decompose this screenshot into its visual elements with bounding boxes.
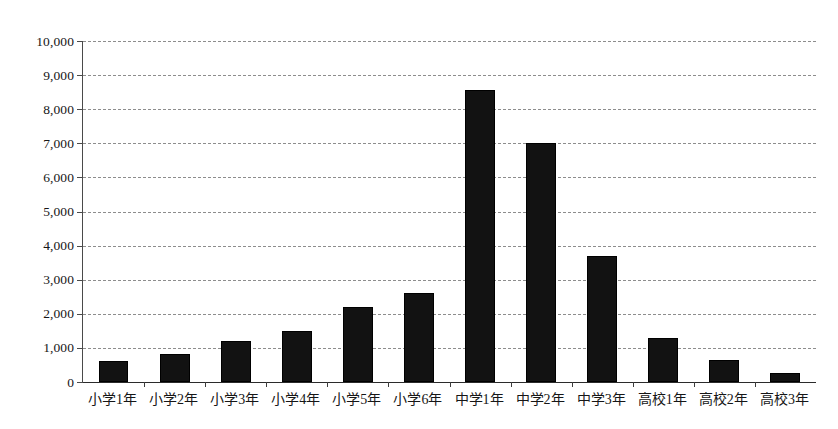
x-axis-tick-label: 高校1年	[632, 390, 693, 410]
x-axis-tick-label: 小学5年	[326, 390, 387, 410]
y-axis-tick-label: 3,000	[0, 273, 74, 287]
x-axis-tick	[205, 382, 206, 387]
x-axis-tick	[144, 382, 145, 387]
y-axis-tick-label: 10,000	[0, 35, 74, 49]
bar	[99, 361, 129, 382]
bar	[526, 143, 556, 382]
x-axis-tick-label: 小学1年	[82, 390, 143, 410]
x-axis-tick	[694, 382, 695, 387]
x-axis-tick	[388, 382, 389, 387]
bar	[282, 331, 312, 382]
bar	[221, 341, 251, 382]
y-axis-tick-label: 7,000	[0, 137, 74, 151]
y-axis-tick-label: 2,000	[0, 307, 74, 321]
bar-chart: 10,000 9,000 8,000 7,000 6,000 5,000 4,0…	[0, 0, 838, 429]
x-axis-tick-label: 高校2年	[693, 390, 754, 410]
bar	[709, 360, 739, 383]
y-axis-tick	[77, 382, 83, 383]
x-axis-tick	[511, 382, 512, 387]
bar	[648, 338, 678, 382]
x-axis-labels: 小学1年 小学2年 小学3年 小学4年 小学5年 小学6年 中学1年 中学2年 …	[82, 390, 815, 420]
x-axis-tick	[572, 382, 573, 387]
x-axis-tick	[450, 382, 451, 387]
bar	[465, 90, 495, 382]
x-axis-tick-label: 小学4年	[265, 390, 326, 410]
bar	[160, 354, 190, 382]
y-axis-tick-label: 6,000	[0, 171, 74, 185]
y-axis-labels: 10,000 9,000 8,000 7,000 6,000 5,000 4,0…	[0, 0, 74, 429]
x-axis-tick-label: 中学2年	[510, 390, 571, 410]
bar	[587, 256, 617, 382]
y-axis-tick-label: 1,000	[0, 341, 74, 355]
bar-series	[83, 41, 816, 382]
x-axis-tick	[755, 382, 756, 387]
plot-area	[82, 41, 816, 383]
y-axis-tick-label: 4,000	[0, 239, 74, 253]
bar	[343, 307, 373, 382]
x-axis-tick-label: 小学2年	[143, 390, 204, 410]
x-axis-tick-label: 中学3年	[571, 390, 632, 410]
y-axis-tick-label: 8,000	[0, 103, 74, 117]
bar	[404, 293, 434, 382]
x-axis-tick-label: 中学1年	[449, 390, 510, 410]
y-axis-tick-label: 5,000	[0, 205, 74, 219]
x-axis-tick	[327, 382, 328, 387]
x-axis-tick	[633, 382, 634, 387]
y-axis-tick-label: 9,000	[0, 69, 74, 83]
x-axis-tick-label: 小学3年	[204, 390, 265, 410]
x-axis-tick-label: 小学6年	[387, 390, 448, 410]
x-axis-tick	[266, 382, 267, 387]
x-axis-tick-label: 高校3年	[754, 390, 815, 410]
y-axis-tick-label: 0	[0, 376, 74, 390]
bar	[770, 373, 800, 382]
